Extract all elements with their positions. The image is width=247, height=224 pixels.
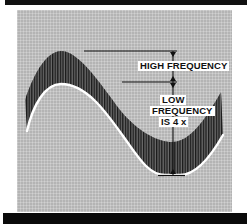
arrow-down-icon [170, 83, 176, 88]
low-frequency-label-line1: LOW [160, 95, 186, 105]
low-frequency-label-line3: IS 4 x [159, 117, 188, 127]
arrow-down-icon [170, 52, 176, 57]
low-frequency-label-line2: FREQUENCY [150, 106, 215, 116]
high-frequency-label: HIGH FREQUENCY [138, 61, 229, 71]
bottom-border-bar [3, 213, 247, 224]
arrow-up-icon [170, 76, 176, 81]
